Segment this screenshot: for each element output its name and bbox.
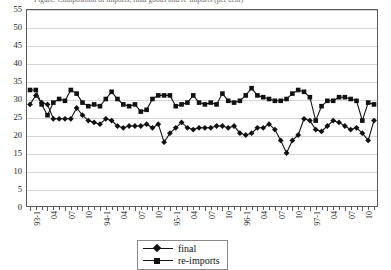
legend-item-final[interactable]: final	[143, 243, 220, 254]
data-point-diamond-marker	[132, 123, 138, 129]
data-point-square-marker	[109, 90, 114, 95]
x-axis-tick	[158, 207, 159, 210]
x-axis-tick	[228, 207, 229, 210]
data-point-diamond-marker	[190, 127, 196, 133]
data-point-diamond-marker	[208, 125, 214, 131]
data-point-diamond-marker	[155, 121, 161, 127]
data-point-diamond-marker	[202, 125, 208, 131]
x-axis-tick	[141, 207, 142, 210]
data-point-square-marker	[261, 95, 266, 100]
data-point-square-marker	[296, 88, 301, 93]
y-axis-tick-label: 55	[14, 5, 23, 14]
x-axis-tick	[246, 207, 247, 210]
data-point-square-marker	[63, 99, 68, 104]
data-point-diamond-marker	[260, 125, 266, 131]
data-point-square-marker	[278, 99, 283, 104]
data-point-square-marker	[104, 97, 109, 102]
x-axis-tick	[71, 207, 72, 210]
x-axis-tick-label: 07	[139, 211, 147, 219]
x-axis-tick	[112, 207, 113, 210]
x-axis-tick-label: 10	[366, 211, 374, 219]
x-axis-tick	[298, 207, 299, 210]
x-axis-tick-label: 95-1	[174, 211, 182, 226]
x-axis-tick	[199, 207, 200, 210]
x-axis-labels: 93-104071094-104071095-104071096-1040710…	[26, 211, 378, 237]
series-layer	[26, 9, 378, 207]
data-point-square-marker	[255, 93, 260, 98]
x-axis-tick	[351, 207, 352, 210]
x-axis-tick-label: 04	[51, 211, 59, 219]
data-point-square-marker	[92, 102, 97, 107]
y-axis-tick-label: 35	[14, 77, 23, 86]
x-axis-tick	[316, 207, 317, 210]
x-axis-tick	[252, 207, 253, 210]
data-point-diamond-marker	[161, 139, 167, 145]
legend-diamond-marker-icon	[143, 243, 173, 254]
x-axis-tick-label: 07	[69, 211, 77, 219]
x-axis-tick-label: 94-1	[104, 211, 112, 226]
data-point-square-marker	[28, 88, 33, 93]
data-point-diamond-marker	[50, 116, 56, 122]
y-axis-tick-label: 5	[18, 185, 22, 194]
y-axis-tick-label: 30	[14, 95, 23, 104]
x-axis-tick-label: 07	[349, 211, 357, 219]
x-axis-tick	[357, 207, 358, 210]
x-axis-tick	[304, 207, 305, 210]
data-point-square-marker	[39, 102, 44, 107]
data-point-square-marker	[319, 104, 324, 109]
data-point-diamond-marker	[150, 125, 156, 131]
data-point-square-marker	[249, 86, 254, 91]
x-axis-tick-label: 04	[261, 211, 269, 219]
series-final	[27, 93, 377, 156]
x-axis-tick	[59, 207, 60, 210]
data-point-square-marker	[179, 102, 184, 107]
x-axis-tick-label: 10	[226, 211, 234, 219]
y-axis-tick-label: 50	[14, 23, 23, 32]
data-point-square-marker	[86, 104, 91, 109]
x-axis-tick	[94, 207, 95, 210]
data-point-square-marker	[348, 97, 353, 102]
y-axis-tick-label: 25	[14, 113, 23, 122]
chart-title: Figure: Composition of imports, final go…	[34, 0, 334, 4]
data-point-square-marker	[138, 109, 143, 114]
x-axis-tick	[147, 207, 148, 210]
x-axis-tick	[123, 207, 124, 210]
data-point-square-marker	[74, 91, 79, 96]
x-axis-tick	[287, 207, 288, 210]
data-point-diamond-marker	[120, 125, 126, 131]
y-axis-tick-label: 45	[14, 41, 23, 50]
x-axis-tick	[176, 207, 177, 210]
data-point-square-marker	[372, 102, 377, 107]
data-point-square-marker	[34, 88, 39, 93]
x-axis-tick	[77, 207, 78, 210]
x-axis-tick-label: 10	[156, 211, 164, 219]
legend-item-re-imports[interactable]: re-imports	[143, 255, 220, 266]
x-axis-tick-label: 04	[121, 211, 129, 219]
x-axis-tick	[269, 207, 270, 210]
data-point-square-marker	[267, 97, 272, 102]
data-point-diamond-marker	[126, 123, 132, 129]
data-point-diamond-marker	[56, 116, 62, 122]
data-point-diamond-marker	[371, 118, 377, 124]
x-axis-tick	[339, 207, 340, 210]
x-axis-tick	[129, 207, 130, 210]
data-point-square-marker	[45, 113, 50, 118]
x-axis-tick	[182, 207, 183, 210]
data-point-diamond-marker	[301, 116, 307, 122]
data-point-square-marker	[150, 97, 155, 102]
data-point-square-marker	[325, 99, 330, 104]
x-axis-tick	[374, 207, 375, 210]
x-axis-tick-label: 10	[296, 211, 304, 219]
data-point-square-marker	[220, 91, 225, 96]
y-axis-tick-label: 0	[18, 203, 22, 212]
data-point-square-marker	[273, 99, 278, 104]
data-point-diamond-marker	[220, 123, 226, 129]
data-point-square-marker	[173, 104, 178, 109]
x-axis-tick	[281, 207, 282, 210]
x-axis-tick-label: 10	[86, 211, 94, 219]
data-point-square-marker	[144, 108, 149, 113]
data-point-square-marker	[121, 102, 126, 107]
data-point-square-marker	[284, 97, 289, 102]
data-point-diamond-marker	[342, 123, 348, 129]
